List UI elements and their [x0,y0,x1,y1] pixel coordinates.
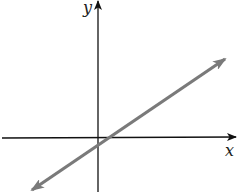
y-axis-label: y [82,0,93,17]
x-axis [2,137,236,138]
coordinate-plane: y x [0,0,239,192]
plotted-line [32,59,225,190]
x-axis-label: x [225,141,234,160]
